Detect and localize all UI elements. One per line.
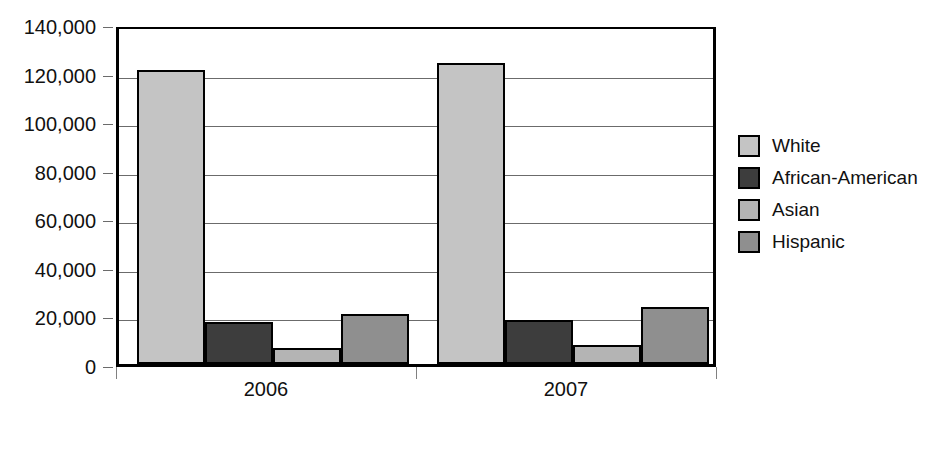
bar-african-american-2007 [505, 320, 573, 364]
x-axis-right-tick [716, 367, 717, 379]
legend-label: African-American [772, 167, 918, 189]
y-axis-tick-mark [103, 318, 113, 319]
y-axis-tick-label: 140,000 [0, 17, 96, 37]
bar-asian-2007 [573, 345, 641, 364]
bar-asian-2006 [273, 348, 341, 364]
y-axis-tick-mark [103, 173, 113, 174]
bar-hispanic-2006 [341, 314, 409, 364]
bars-layer [119, 29, 713, 364]
page-edge [0, 438, 925, 450]
y-axis-tick-label: 80,000 [0, 163, 96, 183]
legend-swatch-icon [738, 231, 760, 253]
x-axis-tick-label: 2006 [116, 378, 416, 400]
x-axis-tick-label: 2007 [416, 378, 716, 400]
y-axis-tick-mark [103, 27, 113, 28]
legend-swatch-icon [738, 167, 760, 189]
y-axis-tick-mark [103, 124, 113, 125]
bar-white-2007 [437, 63, 505, 364]
y-axis-tick-mark [103, 76, 113, 77]
y-axis-tick-mark [103, 270, 113, 271]
legend-swatch-icon [738, 199, 760, 221]
plot-area [116, 27, 716, 367]
legend-item: African-American [738, 162, 918, 194]
y-axis-tick-label: 0 [0, 357, 96, 377]
bar-hispanic-2007 [641, 307, 709, 364]
chart-legend: WhiteAfrican-AmericanAsianHispanic [738, 130, 918, 258]
legend-label: Hispanic [772, 231, 845, 253]
y-axis-tick-label: 20,000 [0, 308, 96, 328]
legend-swatch-icon [738, 135, 760, 157]
legend-item: Hispanic [738, 226, 918, 258]
y-axis-tick-mark [103, 221, 113, 222]
legend-label: Asian [772, 199, 820, 221]
y-axis-tick-label: 120,000 [0, 66, 96, 86]
legend-item: White [738, 130, 918, 162]
y-axis-tick-label: 100,000 [0, 114, 96, 134]
y-axis-tick-label: 40,000 [0, 260, 96, 280]
bar-chart: 020,00040,00060,00080,000100,000120,0001… [0, 0, 925, 450]
bar-african-american-2006 [205, 322, 273, 365]
y-axis-tick-label: 60,000 [0, 211, 96, 231]
y-axis-labels: 020,00040,00060,00080,000100,000120,0001… [0, 0, 96, 450]
y-axis-tick-mark [103, 367, 113, 368]
bar-white-2006 [137, 70, 205, 364]
legend-item: Asian [738, 194, 918, 226]
legend-label: White [772, 135, 821, 157]
